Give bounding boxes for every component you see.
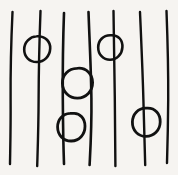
sketch-canvas — [0, 0, 178, 175]
sketch-drawing — [0, 0, 178, 175]
